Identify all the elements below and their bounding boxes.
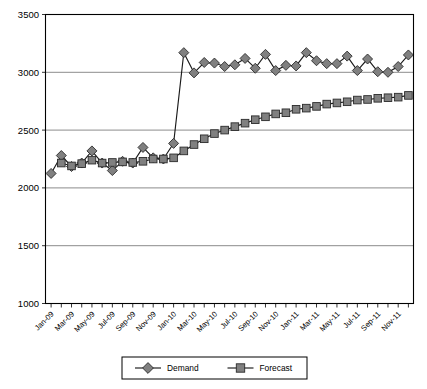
- data-point-forecast: [231, 123, 239, 131]
- data-point-forecast: [333, 99, 341, 107]
- legend-marker-square-icon: [236, 364, 244, 372]
- data-point-forecast: [149, 155, 157, 163]
- legend-label-demand: Demand: [167, 363, 199, 373]
- data-point-forecast: [98, 159, 106, 167]
- chart-container: 100015002000250030003500 Jan-09Mar-09May…: [0, 0, 427, 389]
- y-tick-label: 1000: [18, 298, 39, 309]
- data-point-forecast: [364, 96, 372, 104]
- data-point-forecast: [68, 162, 76, 170]
- data-point-forecast: [109, 159, 117, 167]
- legend-item-forecast[interactable]: Forecast: [228, 363, 293, 373]
- data-point-forecast: [78, 160, 86, 168]
- data-point-forecast: [241, 119, 249, 127]
- data-point-forecast: [272, 110, 280, 118]
- data-point-forecast: [160, 155, 168, 163]
- y-tick-label: 2000: [18, 182, 39, 193]
- data-point-forecast: [405, 92, 413, 100]
- data-point-forecast: [394, 93, 402, 101]
- data-point-forecast: [221, 126, 229, 134]
- data-point-forecast: [58, 159, 66, 167]
- y-tick-label: 2500: [18, 125, 39, 136]
- data-point-forecast: [292, 105, 300, 113]
- data-point-forecast: [190, 141, 198, 149]
- data-point-forecast: [139, 158, 147, 166]
- legend-label-forecast: Forecast: [260, 363, 293, 373]
- data-point-forecast: [262, 113, 270, 121]
- data-point-forecast: [354, 96, 362, 104]
- y-tick-label: 3500: [18, 9, 39, 20]
- data-point-forecast: [251, 116, 259, 124]
- data-point-forecast: [384, 94, 392, 102]
- data-point-forecast: [170, 154, 178, 162]
- data-point-forecast: [200, 135, 208, 143]
- data-point-forecast: [129, 159, 137, 167]
- data-point-forecast: [323, 100, 331, 108]
- data-point-forecast: [374, 95, 382, 103]
- chart-legend: DemandForecast: [122, 357, 307, 379]
- data-point-forecast: [313, 103, 321, 111]
- data-point-forecast: [343, 98, 351, 106]
- data-point-forecast: [88, 156, 96, 164]
- y-tick-label: 1500: [18, 240, 39, 251]
- data-point-forecast: [303, 104, 311, 112]
- data-point-forecast: [119, 158, 127, 166]
- demand-forecast-line-chart: 100015002000250030003500 Jan-09Mar-09May…: [0, 0, 427, 389]
- y-tick-label: 3000: [18, 67, 39, 78]
- data-point-forecast: [180, 147, 188, 155]
- data-point-forecast: [211, 130, 219, 138]
- data-point-forecast: [282, 109, 290, 117]
